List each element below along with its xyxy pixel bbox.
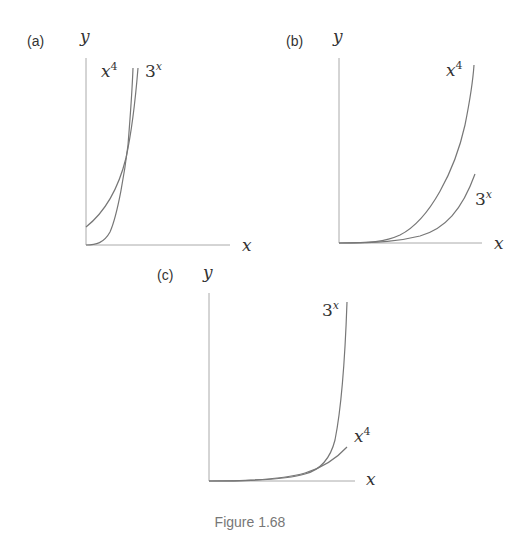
panel-a-x-axis-label: x <box>242 235 252 255</box>
panel-a-label-x4: x4 <box>101 60 118 81</box>
panel-c-label: (c) <box>157 267 173 283</box>
panel-b-label-3x: 3x <box>475 188 493 209</box>
panel-a: (a) y x x4 3x <box>27 26 252 255</box>
panel-b-curve-x4 <box>339 65 474 243</box>
panel-c: (c) y x 3x x4 <box>157 262 376 489</box>
panel-b-label: (b) <box>286 33 303 49</box>
panel-b-x-axis-label: x <box>494 233 504 253</box>
panel-a-y-axis-label: y <box>79 26 90 46</box>
panel-b-y-axis-label: y <box>332 26 343 46</box>
panel-c-y-axis-label: y <box>202 262 213 282</box>
panel-b-curve-3x <box>339 174 475 243</box>
panel-b-label-x4: x4 <box>446 59 463 80</box>
panel-b: (b) y x x4 3x <box>286 26 504 253</box>
panel-c-label-x4: x4 <box>354 425 371 446</box>
figure-caption: Figure 1.68 <box>215 514 286 530</box>
panel-c-curve-3x <box>209 302 347 481</box>
panel-c-curve-x4 <box>209 447 347 481</box>
panel-c-label-3x: 3x <box>322 299 340 320</box>
panel-c-x-axis-label: x <box>366 469 376 489</box>
figure: (a) y x x4 3x (b) y x x4 3x (c) y x 3x x… <box>0 0 531 544</box>
panel-a-curve-3x <box>86 68 138 227</box>
panel-a-label-3x: 3x <box>145 60 163 81</box>
panel-a-curve-x4 <box>86 68 133 245</box>
panel-a-label: (a) <box>27 33 44 49</box>
